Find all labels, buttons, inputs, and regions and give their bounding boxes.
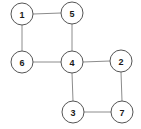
- graph-edge-2-7: [121, 72, 122, 101]
- graph-node-circle-4: [61, 51, 83, 73]
- graph-edge-4-2: [83, 61, 110, 62]
- graph-node-circle-2: [110, 50, 132, 72]
- graph-node-3: 3: [62, 101, 84, 123]
- node-layer: 1564237: [11, 2, 133, 123]
- graph-edge-1-5: [33, 13, 61, 14]
- graph-node-4: 4: [61, 51, 83, 73]
- graph-node-circle-7: [111, 101, 133, 123]
- graph-node-circle-6: [11, 51, 33, 73]
- graph-node-circle-3: [62, 101, 84, 123]
- graph-node-1: 1: [11, 3, 33, 25]
- graph-edge-4-3: [72, 73, 73, 101]
- graph-node-circle-5: [61, 2, 83, 24]
- graph-node-6: 6: [11, 51, 33, 73]
- graph-node-circle-1: [11, 3, 33, 25]
- graph-figure: 1564237: [0, 0, 141, 129]
- graph-canvas: 1564237: [0, 0, 141, 129]
- graph-node-2: 2: [110, 50, 132, 72]
- graph-node-5: 5: [61, 2, 83, 24]
- graph-node-7: 7: [111, 101, 133, 123]
